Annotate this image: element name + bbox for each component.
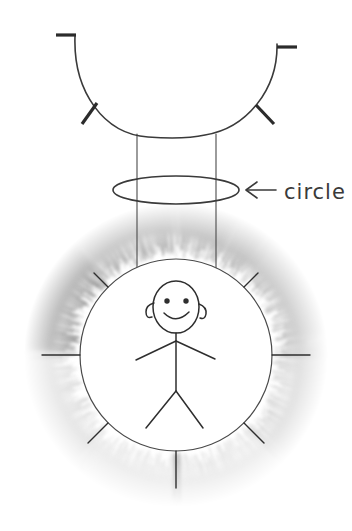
fringe-strand — [173, 221, 174, 251]
fringe-strand — [179, 222, 180, 248]
figure-eye-right — [183, 298, 188, 303]
annotation-label: circle — [284, 180, 346, 204]
ballerina-diagram: circle — [0, 0, 352, 531]
drawing-canvas: circle — [0, 0, 352, 531]
fringe-strand — [177, 199, 178, 244]
fringe-strand — [282, 352, 328, 353]
fringe-strand — [23, 357, 62, 358]
figure-eye-left — [164, 298, 169, 303]
